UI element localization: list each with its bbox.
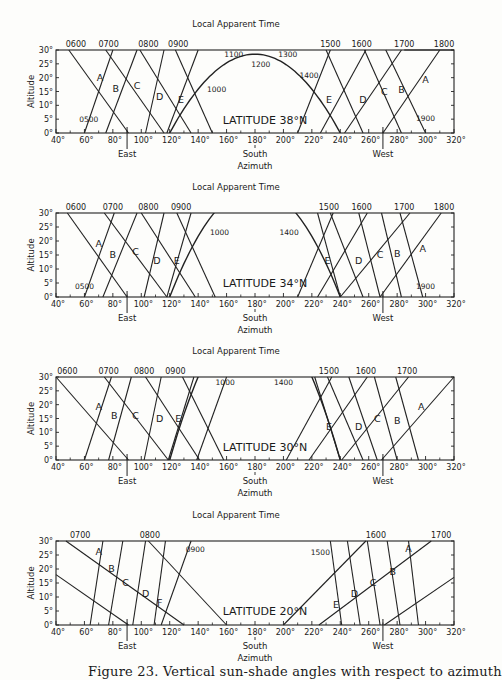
x-tick-label: 280° — [390, 628, 409, 637]
time-label-1800: 1800 — [434, 203, 454, 212]
x-tick-label: 80° — [108, 463, 122, 472]
shade-label-A: A — [95, 238, 102, 249]
time-label-0500: 0500 — [75, 282, 94, 291]
shade-label-B: B — [394, 248, 401, 259]
x-tick-label: 320° — [446, 300, 465, 309]
shade-label-B: B — [390, 566, 397, 577]
time-label-1600: 1600 — [351, 40, 371, 49]
y-tick-label: 20° — [39, 237, 53, 246]
y-tick-label: 25° — [39, 551, 53, 560]
shade-label-E: E — [326, 421, 332, 432]
time-label-1600: 1600 — [356, 367, 376, 376]
x-tick-label: 100° — [134, 463, 153, 472]
shade-line — [326, 50, 363, 133]
azimuth-axis-label: Azimuth — [237, 161, 272, 171]
time-label-0700: 0700 — [98, 367, 118, 376]
shade-label-E: E — [175, 413, 181, 424]
time-label-1500: 1500 — [319, 367, 339, 376]
x-tick-label: 180° — [247, 136, 266, 145]
shade-line — [382, 377, 454, 460]
y-tick-label: 5° — [44, 442, 53, 451]
south-marker-label: South — [243, 313, 268, 323]
y-tick-label: 10° — [39, 265, 53, 274]
y-tick-label: 5° — [44, 607, 53, 616]
azimuth-axis-label: Azimuth — [237, 325, 272, 335]
altitude-axis-label: Altitude — [26, 402, 36, 435]
y-tick-label: 30° — [39, 209, 53, 218]
time-label-1600: 1600 — [351, 203, 371, 212]
west-marker-label: West — [372, 313, 394, 323]
y-tick-label: 15° — [39, 88, 53, 97]
south-marker-label: South — [243, 641, 268, 651]
time-label-1400: 1400 — [280, 228, 299, 237]
x-tick-label: 140° — [191, 628, 210, 637]
shade-label-A: A — [95, 401, 102, 412]
x-tick-label: 300° — [418, 136, 437, 145]
x-tick-label: 80° — [108, 136, 122, 145]
latitude-title: LATITUDE 20°N — [223, 605, 307, 618]
x-tick-label: 200° — [276, 300, 295, 309]
time-label-0800: 0800 — [134, 367, 154, 376]
x-tick-label: 160° — [219, 628, 238, 637]
x-tick-label: 300° — [418, 300, 437, 309]
latitude-title: LATITUDE 34°N — [223, 277, 307, 290]
shade-label-E: E — [333, 599, 339, 610]
x-tick-label: 140° — [191, 463, 210, 472]
shade-label-A: A — [419, 243, 426, 254]
y-tick-label: 10° — [39, 593, 53, 602]
x-tick-label: 160° — [219, 136, 238, 145]
local-apparent-time-label: Local Apparent Time — [192, 19, 279, 29]
x-tick-label: 220° — [304, 463, 323, 472]
y-tick-label: 15° — [39, 251, 53, 260]
time-label-0900: 0900 — [165, 367, 185, 376]
shade-line — [133, 541, 146, 625]
x-tick-label: 160° — [219, 300, 238, 309]
shade-label-D: D — [355, 421, 362, 432]
x-tick-label: 140° — [191, 136, 210, 145]
altitude-axis-label: Altitude — [26, 75, 36, 108]
x-tick-label: 120° — [162, 300, 181, 309]
y-tick-label: 15° — [39, 579, 53, 588]
x-tick-label: 60° — [79, 136, 93, 145]
shade-label-D: D — [355, 255, 362, 266]
shade-label-C: C — [370, 577, 377, 588]
shade-label-E: E — [326, 94, 332, 105]
x-tick-label: 100° — [134, 300, 153, 309]
x-tick-label: 260° — [361, 463, 380, 472]
x-tick-label: 280° — [390, 300, 409, 309]
x-tick-label: 100° — [134, 136, 153, 145]
time-label-1500: 1500 — [319, 203, 339, 212]
shade-label-E: E — [174, 255, 180, 266]
x-tick-label: 300° — [418, 463, 437, 472]
chart-panel-lat38: Local Apparent Time0°5°10°15°20°25°30°40… — [26, 19, 466, 171]
y-tick-label: 25° — [39, 60, 53, 69]
shade-label-D: D — [359, 94, 366, 105]
shade-line — [140, 50, 191, 133]
south-marker-label: South — [243, 149, 268, 159]
east-marker-label: East — [118, 641, 137, 651]
x-tick-label: 260° — [361, 300, 380, 309]
x-tick-label: 40° — [51, 136, 65, 145]
time-label-1000: 1000 — [216, 378, 235, 387]
shade-line — [177, 213, 215, 297]
shade-label-E: E — [178, 94, 184, 105]
time-label-1700: 1700 — [394, 40, 414, 49]
y-tick-label: 5° — [44, 279, 53, 288]
shade-label-C: C — [122, 577, 129, 588]
time-label-1300: 1300 — [278, 50, 297, 59]
figure-caption: Figure 23. Vertical sun-shade angles wit… — [88, 664, 502, 679]
time-label-1900: 1900 — [416, 114, 435, 123]
shade-label-C: C — [381, 86, 388, 97]
y-tick-label: 5° — [44, 115, 53, 124]
x-tick-label: 100° — [134, 628, 153, 637]
shade-label-A: A — [418, 401, 425, 412]
azimuth-axis-label: Azimuth — [237, 653, 272, 663]
time-label-0800: 0800 — [140, 531, 160, 540]
time-label-0800: 0800 — [138, 40, 158, 49]
shade-label-C: C — [134, 80, 141, 91]
azimuth-axis-label: Azimuth — [237, 488, 272, 498]
time-label-0800: 0800 — [138, 203, 158, 212]
south-marker-label: South — [243, 476, 268, 486]
time-label-1100: 1100 — [224, 50, 243, 59]
